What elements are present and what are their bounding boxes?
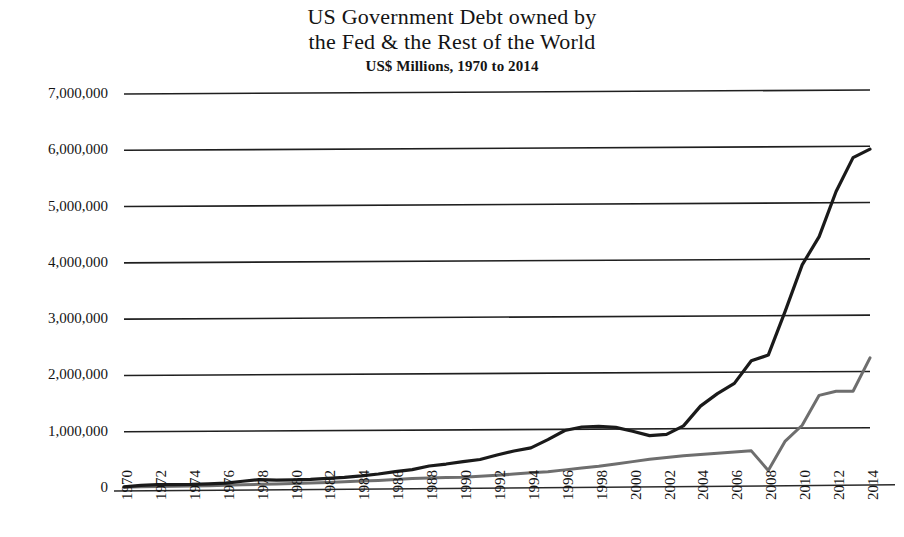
x-tick-label: 2004 <box>695 470 712 500</box>
x-tick-label: 2000 <box>628 470 645 500</box>
x-tick-label: 1984 <box>356 470 373 500</box>
x-tick-label: 1980 <box>289 470 306 500</box>
x-tick-label: 2008 <box>763 470 780 500</box>
x-tick-label: 1988 <box>424 470 441 500</box>
x-tick-label: 1970 <box>119 470 136 500</box>
x-tick-label: 1998 <box>594 470 611 500</box>
x-tick-label: 1974 <box>187 470 204 500</box>
x-tick-label: 1992 <box>492 470 509 500</box>
x-tick-label: 1990 <box>458 470 475 500</box>
x-tick-label: 1976 <box>221 470 238 500</box>
x-tick-label: 1978 <box>255 470 272 500</box>
x-tick-label: 1994 <box>526 470 543 500</box>
chart-figure: US Government Debt owned by the Fed & th… <box>0 0 904 537</box>
x-tick-label: 2006 <box>729 470 746 500</box>
x-tick-label: 2012 <box>831 470 848 500</box>
x-tick-label: 2010 <box>797 470 814 500</box>
x-tick-label: 1972 <box>153 470 170 500</box>
x-tick-label: 2002 <box>662 470 679 500</box>
x-tick-label: 1982 <box>322 470 339 500</box>
x-tick-label: 1996 <box>560 470 577 500</box>
x-tick-label: 1986 <box>390 470 407 500</box>
x-axis-tick-labels: 1970197219741976197819801982198419861988… <box>0 0 904 537</box>
x-tick-label: 2014 <box>865 470 882 500</box>
